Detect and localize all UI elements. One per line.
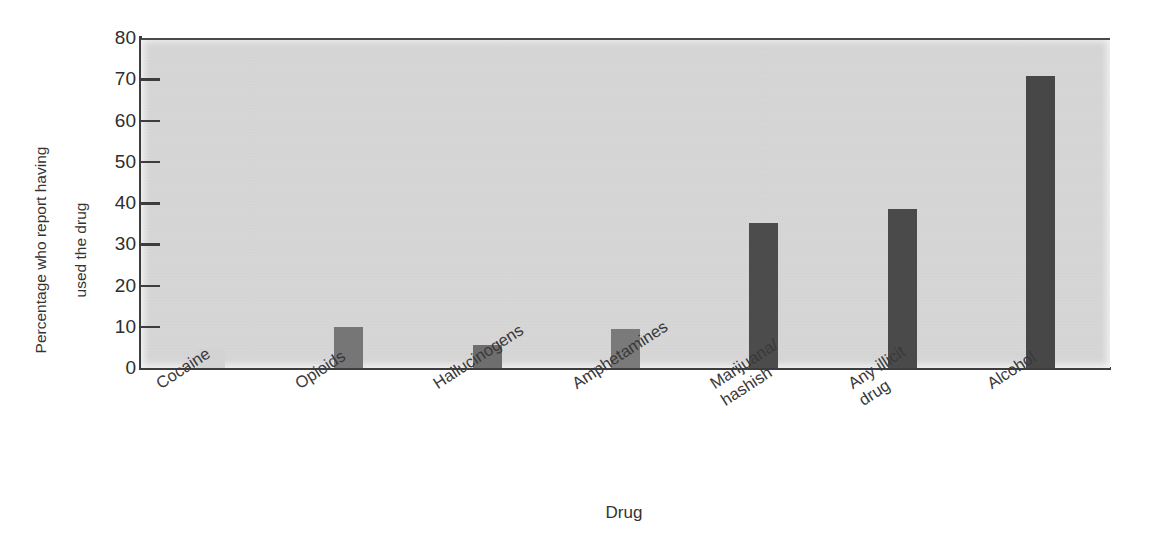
y-tick-label: 0 [96,358,136,377]
y-tick-mark [141,243,160,246]
y-axis-tick-labels: 80706050403020100 [68,0,136,533]
y-tick-label: 50 [96,152,136,171]
y-tick-mark [141,78,160,81]
y-tick-label: 40 [96,193,136,212]
y-tick-label: 80 [96,28,136,47]
y-tick-label: 30 [96,234,136,253]
x-axis-title-text: Drug [606,503,643,522]
y-tick-mark [141,120,160,123]
bar-chart-figure: Percentage who report having used the dr… [0,0,1152,533]
y-tick-label: 70 [96,69,136,88]
y-tick-label: 10 [96,317,136,336]
y-axis-title-line-1: Percentage who report having [31,85,51,415]
plot-area [141,38,1110,368]
plot-texture [141,38,1110,368]
y-tick-mark [141,285,160,288]
plot-top-border [141,38,1110,40]
y-tick-mark [141,161,160,164]
y-tick-label: 20 [96,276,136,295]
y-tick-mark [141,202,160,205]
x-axis-title: Drug [0,503,1152,523]
bar-alcohol [1026,76,1055,368]
y-tick-mark [141,326,160,329]
y-tick-label: 60 [96,111,136,130]
